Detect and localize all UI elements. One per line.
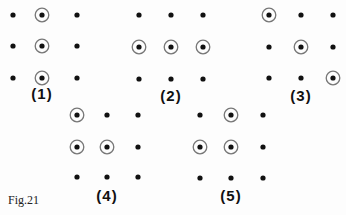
dot (10, 75, 15, 80)
dot (74, 12, 79, 17)
dot (104, 144, 109, 149)
dot (104, 174, 109, 179)
panel-label-1: (1) (31, 85, 52, 102)
dot (135, 112, 140, 117)
dot (104, 112, 109, 117)
dot (200, 44, 205, 49)
dot (228, 144, 233, 149)
dot (298, 75, 303, 80)
dot (266, 44, 271, 49)
panel-5 (193, 108, 265, 180)
panel-2 (132, 12, 210, 81)
dot (228, 112, 233, 117)
dot (135, 174, 140, 179)
dot (168, 44, 173, 49)
panel-label-5: (5) (220, 187, 241, 204)
dot (330, 75, 335, 80)
dot (10, 12, 15, 17)
panel-4 (70, 108, 140, 179)
dot (197, 175, 202, 180)
panel-label-4: (4) (96, 187, 117, 204)
dot (74, 112, 79, 117)
dot (39, 75, 44, 80)
dot (298, 12, 303, 17)
dot (228, 175, 233, 180)
dot (39, 43, 44, 48)
dot (168, 12, 173, 17)
panel-label-3: (3) (290, 87, 311, 104)
figure-caption: Fig.21 (8, 193, 39, 208)
dot (74, 174, 79, 179)
dot (260, 144, 265, 149)
dot (39, 12, 44, 17)
panel-label-2: (2) (160, 87, 181, 104)
dot (136, 12, 141, 17)
dot (298, 44, 303, 49)
dot (200, 12, 205, 17)
dot (197, 112, 202, 117)
dot (74, 144, 79, 149)
dot (330, 44, 335, 49)
dot (74, 43, 79, 48)
panel-3 (262, 8, 340, 85)
dot (168, 76, 173, 81)
dot (200, 76, 205, 81)
dot (260, 175, 265, 180)
dot (266, 75, 271, 80)
dot (136, 44, 141, 49)
dot (136, 76, 141, 81)
dot (330, 12, 335, 17)
dot-grid-diagram (0, 0, 346, 215)
dot (135, 144, 140, 149)
dot (266, 12, 271, 17)
dot (197, 144, 202, 149)
dot (74, 75, 79, 80)
panel-1 (10, 8, 79, 85)
dot (260, 112, 265, 117)
dot (10, 43, 15, 48)
